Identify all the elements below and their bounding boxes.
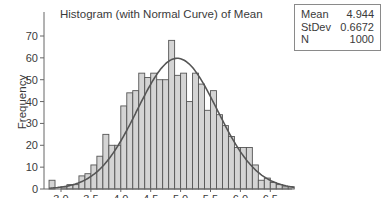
y-tick-label: 0 <box>32 183 38 195</box>
y-tick-label: 40 <box>26 96 38 108</box>
stats-label: N <box>301 33 309 46</box>
y-tick-label: 50 <box>26 74 38 86</box>
histogram-bar <box>199 84 205 189</box>
x-tick-label: 3.5 <box>83 193 98 198</box>
histogram-bar <box>97 156 103 189</box>
stats-legend-box: Mean 4.944 StDev 0.6672 N 1000 <box>294 4 381 51</box>
stats-label: StDev <box>301 21 331 34</box>
x-tick-label: 4.0 <box>113 193 128 198</box>
x-tick-label: 6.5 <box>263 193 278 198</box>
stats-value: 1000 <box>350 33 374 46</box>
stats-value: 4.944 <box>346 8 374 21</box>
histogram-bar <box>234 147 240 189</box>
x-tick-label: 4.5 <box>143 193 158 198</box>
histogram-bar <box>258 180 264 189</box>
y-tick-label: 70 <box>26 30 38 42</box>
stats-row-stdev: StDev 0.6672 <box>301 21 374 34</box>
stats-label: Mean <box>301 8 329 21</box>
histogram-bar <box>127 93 133 189</box>
histogram-bar <box>181 73 187 189</box>
histogram-bar <box>175 75 181 189</box>
stats-value: 0.6672 <box>340 21 374 34</box>
histogram-bar <box>133 91 139 189</box>
x-tick-label: 6.0 <box>233 193 248 198</box>
x-tick-label: 3.0 <box>53 193 68 198</box>
y-tick-label: 20 <box>26 139 38 151</box>
histogram-bar <box>246 147 252 189</box>
histogram-bar <box>193 73 199 189</box>
y-tick-label: 10 <box>26 161 38 173</box>
histogram-bar <box>91 165 97 189</box>
x-tick-label: 5.5 <box>203 193 218 198</box>
stats-row-n: N 1000 <box>301 33 374 46</box>
histogram-bar <box>121 106 127 189</box>
histogram-bar <box>187 102 193 189</box>
histogram-bar <box>85 174 91 189</box>
histogram-bar <box>228 137 234 189</box>
histogram-bar <box>163 80 169 189</box>
histogram-bar <box>115 145 121 189</box>
y-tick-label: 30 <box>26 117 38 129</box>
histogram-bar <box>139 73 145 189</box>
histogram-bar <box>205 110 211 189</box>
x-tick-label: 5.0 <box>173 193 188 198</box>
histogram-bar <box>222 126 228 189</box>
y-tick-label: 60 <box>26 52 38 64</box>
histogram-bar <box>157 80 163 189</box>
stats-row-mean: Mean 4.944 <box>301 8 374 21</box>
histogram-bar <box>151 73 157 189</box>
histogram-bar <box>169 40 175 189</box>
histogram-bar <box>216 115 222 189</box>
